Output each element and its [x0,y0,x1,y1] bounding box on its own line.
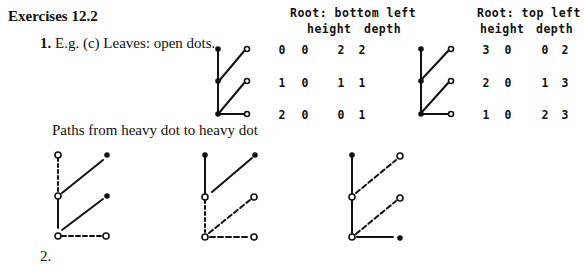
tree-root-top-left [419,47,453,117]
path-diagram-1 [55,152,109,239]
tree-root-bottom-left [216,47,249,117]
path-diagram-3 [349,153,403,240]
path-diagram-2 [202,153,257,240]
